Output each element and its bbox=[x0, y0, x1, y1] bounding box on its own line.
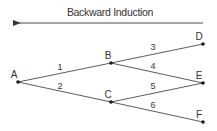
edge-label-3: 3 bbox=[150, 42, 155, 52]
edge-a-c bbox=[18, 82, 111, 102]
node-label-d: D bbox=[195, 31, 202, 42]
node-b bbox=[109, 61, 113, 65]
node-label-e: E bbox=[196, 70, 203, 81]
edge-c-e bbox=[111, 83, 203, 102]
node-e bbox=[201, 81, 205, 85]
node-c bbox=[109, 100, 113, 104]
edge-label-5: 5 bbox=[150, 81, 155, 91]
node-label-f: F bbox=[196, 109, 202, 120]
edge-c-f bbox=[111, 102, 203, 122]
edge-label-1: 1 bbox=[57, 62, 62, 72]
node-label-b: B bbox=[105, 50, 112, 61]
backward-induction-tree-diagram: Backward Induction 123456 ABCDEF bbox=[0, 0, 217, 131]
node-labels: ABCDEF bbox=[11, 31, 203, 120]
edge-label-2: 2 bbox=[57, 81, 62, 91]
edge-b-e bbox=[111, 63, 203, 83]
diagram-title: Backward Induction bbox=[67, 6, 154, 18]
edge-label-4: 4 bbox=[150, 61, 155, 71]
node-f bbox=[201, 120, 205, 124]
node-d bbox=[201, 42, 205, 46]
node-label-c: C bbox=[104, 89, 111, 100]
node-a bbox=[16, 80, 20, 84]
edge-label-6: 6 bbox=[150, 100, 155, 110]
node-label-a: A bbox=[11, 69, 18, 80]
edge-a-b bbox=[18, 63, 111, 82]
edge-b-d bbox=[111, 44, 203, 63]
